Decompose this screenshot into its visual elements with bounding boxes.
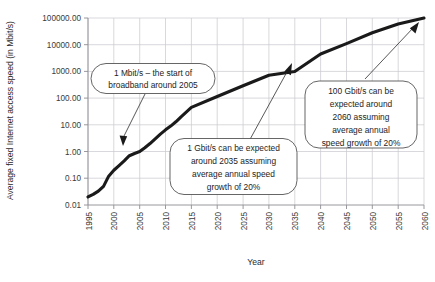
annotation-1mbit[interactable]: 1 Mbit/s – the start of broadband around… (91, 64, 215, 94)
xtick-label-2015: 2015 (188, 212, 197, 231)
annotation-1gbit-line-2: around 2035 assuming (191, 156, 277, 166)
xtick-label-2030: 2030 (265, 212, 274, 231)
x-axis-title: Year (247, 257, 265, 267)
annotation-1mbit-line-1: 1 Mbit/s – the start of (114, 68, 193, 78)
ytick-label-1: 1.00 (65, 148, 81, 157)
chart-container: 100000.00 10000.00 1000.00 100.00 10.00 … (0, 0, 435, 282)
ytick-label-0.01: 0.01 (65, 201, 81, 210)
ytick-label-0.1: 0.10 (65, 174, 81, 183)
xtick-label-2035: 2035 (291, 212, 300, 231)
ytick-label-10000: 10000.00 (47, 41, 82, 50)
xtick-label-2020: 2020 (214, 212, 223, 231)
x-axis-tickmarks (88, 205, 424, 209)
ytick-label-1000: 1000.00 (51, 67, 81, 76)
xtick-label-2050: 2050 (369, 212, 378, 231)
annotation-1gbit-line-1: 1 Gbit/s can be expected (187, 143, 280, 153)
ytick-label-10: 10.00 (61, 121, 82, 130)
y-axis-title: Average fixed Internet access speed (in … (5, 21, 15, 200)
xtick-label-1995: 1995 (85, 212, 94, 231)
y-axis-tickmarks (84, 18, 88, 205)
x-axis-tick-labels: 1995 2000 2005 2010 2015 2020 2025 2030 … (85, 212, 430, 231)
line-chart: 100000.00 10000.00 1000.00 100.00 10.00 … (0, 0, 435, 282)
annotation-100gbit[interactable]: 100 Gbit/s can be expected around 2060 a… (305, 81, 417, 148)
xtick-label-2040: 2040 (317, 212, 326, 231)
annotation-100gbit-line-1: 100 Gbit/s can be (328, 86, 394, 96)
annotation-100gbit-line-2: expected around (330, 99, 393, 109)
annotation-1gbit-line-3: average annual speed (192, 169, 275, 179)
xtick-label-2025: 2025 (240, 212, 249, 231)
xtick-label-2045: 2045 (343, 212, 352, 231)
annotation-100gbit-line-4: average annual (332, 125, 390, 135)
y-axis-tick-labels: 100000.00 10000.00 1000.00 100.00 10.00 … (42, 14, 81, 210)
arrow-head-1mbit (120, 136, 128, 147)
annotation-100gbit-line-5: speed growth of 20% (322, 138, 401, 148)
ytick-label-100000: 100000.00 (42, 14, 81, 23)
annotation-1mbit-line-2: broadband around 2005 (108, 80, 198, 90)
xtick-label-2055: 2055 (395, 212, 404, 231)
annotation-100gbit-line-3: 2060 assuming (333, 112, 390, 122)
ytick-label-100: 100.00 (56, 94, 81, 103)
annotation-1gbit[interactable]: 1 Gbit/s can be expected around 2035 ass… (170, 139, 297, 195)
xtick-label-2060: 2060 (421, 212, 430, 231)
xtick-label-2005: 2005 (136, 212, 145, 231)
leader-line-1mbit (123, 94, 145, 138)
xtick-label-2000: 2000 (110, 212, 119, 231)
arrow-head-100gbit (410, 22, 419, 34)
xtick-label-2010: 2010 (162, 212, 171, 231)
annotation-1gbit-line-4: growth of 20% (207, 182, 261, 192)
